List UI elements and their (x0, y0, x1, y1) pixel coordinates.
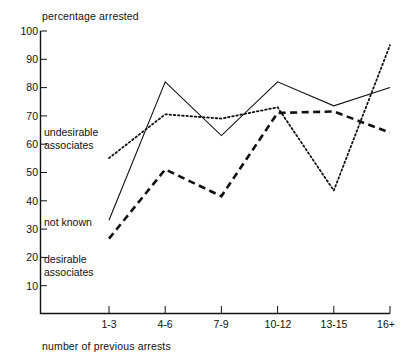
x-tick-label-16plus: 16+ (368, 318, 404, 330)
series-label-undesirable-line2: associates (44, 139, 98, 152)
series-label-undesirable-line1: undesirable (44, 126, 98, 139)
x-tick-label-4-6: 4-6 (145, 318, 185, 330)
y-tick-label-100: 100 (12, 25, 38, 37)
series-line-not-known (109, 82, 390, 220)
y-tick-label-50: 50 (12, 166, 38, 178)
x-axis-title: number of previous arrests (42, 340, 171, 352)
series-label-undesirable-associates: undesirable associates (44, 126, 98, 151)
series-label-desirable-associates: desirable associates (44, 253, 94, 278)
data-series-layer (109, 45, 390, 239)
y-tick-label-80: 80 (12, 81, 38, 93)
y-tick-label-60: 60 (12, 138, 38, 150)
y-tick-label-20: 20 (12, 251, 38, 263)
y-tick-label-10: 10 (12, 280, 38, 292)
y-tick-label-30: 30 (12, 223, 38, 235)
chart-plot-area (0, 0, 405, 363)
x-tick-label-10-12: 10-12 (255, 318, 301, 330)
y-axis-title: percentage arrested (42, 10, 139, 22)
series-label-notknown-line1: not known (44, 216, 92, 229)
series-line-desirable-associates (109, 112, 390, 239)
x-tick-label-1-3: 1-3 (89, 318, 129, 330)
series-label-not-known: not known (44, 216, 92, 229)
y-tick-label-90: 90 (12, 53, 38, 65)
x-axis-ticks (109, 306, 390, 314)
y-tick-label-70: 70 (12, 110, 38, 122)
y-tick-label-40: 40 (12, 195, 38, 207)
series-label-desirable-line1: desirable (44, 253, 94, 266)
x-tick-label-13-15: 13-15 (311, 318, 357, 330)
chart-figure: percentage arrested number of previous a… (0, 0, 405, 363)
series-label-desirable-line2: associates (44, 266, 94, 279)
x-tick-label-7-9: 7-9 (201, 318, 241, 330)
y-axis-ticks (41, 31, 48, 286)
